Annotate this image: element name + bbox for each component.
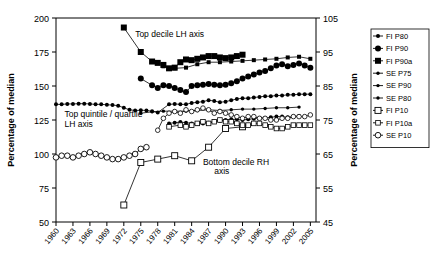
data-point xyxy=(296,61,302,67)
legend-marker-icon xyxy=(376,96,379,99)
data-point xyxy=(291,93,295,97)
data-point xyxy=(302,63,308,69)
data-point xyxy=(218,100,222,104)
data-point xyxy=(252,114,257,119)
data-point xyxy=(218,109,223,114)
chart-annotation: Top decile LH axis xyxy=(135,29,204,39)
data-point xyxy=(297,123,302,128)
legend-marker-icon xyxy=(376,34,380,38)
data-point xyxy=(269,94,273,98)
legend-item-label: FI P10 xyxy=(386,106,408,115)
data-point xyxy=(190,101,194,105)
data-point xyxy=(246,114,251,119)
data-point xyxy=(87,150,93,156)
data-point xyxy=(206,108,211,113)
data-point xyxy=(88,102,92,106)
legend-item-label: SE P80 xyxy=(386,94,411,103)
data-point xyxy=(138,146,144,152)
data-point xyxy=(308,92,312,96)
data-point xyxy=(59,153,65,159)
data-point xyxy=(194,56,200,62)
data-point xyxy=(268,118,273,123)
data-point xyxy=(161,64,165,68)
data-point xyxy=(240,52,246,58)
chart-annotation: Bottom decile RH xyxy=(203,157,269,167)
legend-layer[interactable]: FI P80FI P90FI P90aSE P75SE P90SE P80FI … xyxy=(371,29,429,148)
legend-item-fi-p10[interactable]: FI P10 xyxy=(373,106,408,115)
data-point xyxy=(229,98,233,102)
data-point xyxy=(132,151,138,157)
data-point xyxy=(241,107,244,110)
data-point xyxy=(200,54,206,60)
legend-marker-icon xyxy=(375,132,381,138)
data-point xyxy=(189,83,195,89)
data-point xyxy=(302,114,307,119)
data-point xyxy=(223,55,229,61)
data-point xyxy=(167,125,172,130)
data-point xyxy=(195,100,199,104)
data-point xyxy=(155,128,160,133)
right-axis-tick-label: 55 xyxy=(323,184,333,194)
data-point xyxy=(53,155,59,161)
data-point xyxy=(235,114,240,119)
data-point xyxy=(230,108,233,111)
data-point xyxy=(275,106,278,109)
legend-marker-icon xyxy=(375,45,381,51)
data-point xyxy=(178,123,183,128)
data-point xyxy=(211,82,217,88)
data-point xyxy=(65,102,69,106)
chart-annotation: Top quintile / quartile xyxy=(64,109,142,119)
data-point xyxy=(280,94,284,98)
data-point xyxy=(172,153,178,159)
data-point xyxy=(229,113,234,118)
data-point xyxy=(104,155,110,161)
data-point xyxy=(189,158,195,164)
legend-marker-icon xyxy=(375,107,381,113)
left-axis-tick-label: 150 xyxy=(34,82,49,92)
data-point xyxy=(121,25,127,31)
legend-marker-icon xyxy=(376,121,381,126)
data-point xyxy=(70,155,76,161)
data-point xyxy=(201,100,205,104)
data-point xyxy=(155,85,161,91)
data-point xyxy=(297,92,301,96)
data-point xyxy=(93,151,99,157)
data-point xyxy=(167,102,171,106)
data-point xyxy=(183,56,189,62)
data-point xyxy=(65,153,71,159)
data-point xyxy=(252,58,256,62)
data-point xyxy=(160,82,166,88)
data-point xyxy=(189,123,194,128)
data-point xyxy=(280,116,285,121)
data-point xyxy=(178,111,183,116)
data-point xyxy=(201,106,206,111)
data-point xyxy=(155,60,161,66)
data-point xyxy=(184,66,188,70)
data-point xyxy=(201,119,206,124)
data-point xyxy=(212,111,217,116)
data-point xyxy=(194,82,200,88)
data-point xyxy=(274,118,279,123)
data-point xyxy=(183,89,189,95)
data-point xyxy=(234,53,240,59)
right-axis-tick-label: 95 xyxy=(323,48,333,58)
data-point xyxy=(246,96,250,100)
data-point xyxy=(144,108,148,112)
data-point xyxy=(256,69,262,75)
data-point xyxy=(115,156,121,162)
legend-marker-icon xyxy=(376,72,379,75)
legend-item-label: SE P90 xyxy=(386,81,411,90)
data-point xyxy=(223,111,228,116)
left-axis-tick-label: 200 xyxy=(34,14,49,24)
data-point xyxy=(223,119,228,124)
right-axis-tick-label: 105 xyxy=(323,14,338,24)
left-axis-title: Percentage of median xyxy=(6,73,16,167)
data-point xyxy=(195,108,200,113)
data-point xyxy=(291,114,296,119)
data-point xyxy=(184,108,189,113)
data-point xyxy=(263,94,267,98)
data-point xyxy=(302,123,307,128)
data-point xyxy=(290,62,296,68)
data-point xyxy=(138,49,144,55)
left-axis-tick-label: 50 xyxy=(39,218,49,228)
